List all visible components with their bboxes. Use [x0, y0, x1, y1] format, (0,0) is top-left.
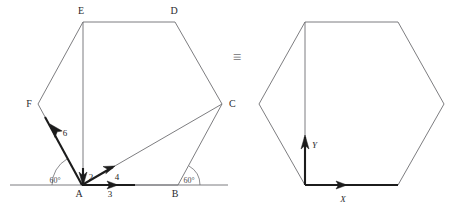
vertex-label-a: A — [75, 188, 83, 199]
vertex-label-f: F — [26, 98, 32, 109]
magnitude-label-6: 6 — [63, 128, 68, 138]
magnitude-label-4: 4 — [115, 172, 120, 182]
angle-label-at-b: 60° — [183, 176, 194, 185]
figure-canvas: A B C D E F 3 4 2 6 60° 60° ≡ — [0, 0, 461, 211]
x-axis-label: X — [339, 194, 346, 204]
vertex-label-c: C — [229, 98, 236, 109]
vector-ab-3 — [82, 181, 135, 189]
x-axis-vector — [305, 181, 398, 189]
angle-label-at-a: 60° — [49, 176, 60, 185]
y-axis-label: Y — [312, 140, 318, 150]
vertex-label-b: B — [172, 188, 179, 199]
vector-ea-2 — [79, 22, 87, 186]
hexagon-outline-right — [259, 22, 444, 185]
left-hexagon-diagram: A B C D E F 3 4 2 6 60° 60° — [10, 5, 236, 199]
magnitude-label-3: 3 — [108, 189, 113, 199]
y-axis-vector — [301, 135, 309, 185]
vertex-label-e: E — [78, 5, 84, 16]
figure-root: A B C D E F 3 4 2 6 60° 60° ≡ — [0, 0, 461, 211]
equivalence-symbol: ≡ — [233, 49, 241, 65]
hexagon-outline-left — [38, 22, 222, 185]
vertex-label-d: D — [170, 5, 177, 16]
magnitude-label-2: 2 — [89, 172, 94, 182]
right-hexagon-diagram: X Y — [259, 22, 444, 204]
